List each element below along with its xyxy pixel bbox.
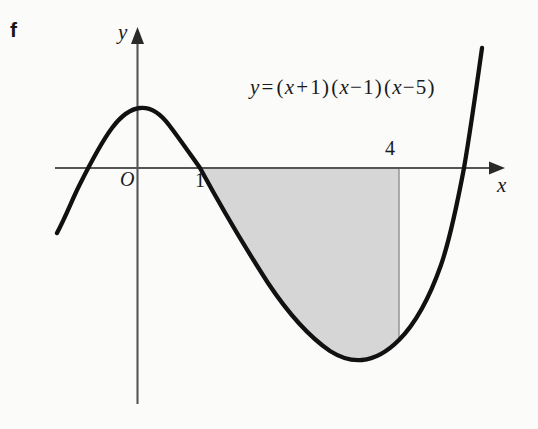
y-axis-arrowhead <box>131 27 144 44</box>
equation-annotation: y=(x+1)(x−1)(x−5) <box>250 77 436 98</box>
figure-container: f y x O 1 4 y=(x+1)(x−1)(x−5) <box>0 0 538 429</box>
equation-f3-const: 5 <box>416 75 427 99</box>
equation-f1-const: 1 <box>310 75 321 99</box>
shaded-area-group <box>200 168 399 360</box>
equation-f2-op: − <box>349 75 363 99</box>
equation-f2-const: 1 <box>363 75 374 99</box>
graph-canvas <box>0 0 538 429</box>
equation-lhs: y <box>250 75 260 99</box>
equation-f2-close: ) <box>374 75 383 99</box>
equation-f1-op: + <box>294 75 310 99</box>
equation-f2-var: x <box>339 75 349 99</box>
y-axis-group <box>131 27 144 404</box>
equation-f3-open: ( <box>383 75 392 99</box>
shaded-area-under-curve <box>200 168 399 360</box>
equation-f3-close: ) <box>426 75 435 99</box>
x-tick-label-4: 4 <box>385 138 395 158</box>
equation-f3-op: − <box>402 75 416 99</box>
equation-f3-var: x <box>392 75 402 99</box>
part-label: f <box>10 19 17 40</box>
equation-f1-close: ) <box>321 75 330 99</box>
x-axis-label: x <box>497 175 506 196</box>
equation-equals: = <box>260 75 276 99</box>
y-axis-label: y <box>118 22 127 43</box>
equation-f1-open: ( <box>276 75 285 99</box>
origin-label: O <box>120 169 134 189</box>
equation-f1-var: x <box>285 75 295 99</box>
x-tick-label-1: 1 <box>195 170 205 190</box>
